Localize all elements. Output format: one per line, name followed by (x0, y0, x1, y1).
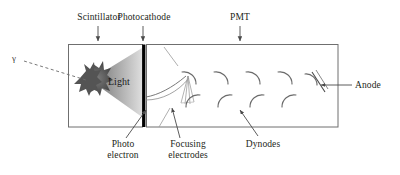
label-pmt: PMT (216, 12, 264, 23)
label-focusing-line1: Focusing (152, 139, 224, 150)
label-photo-electron-line1: Photo (92, 139, 154, 150)
label-photocathode: Photocathode (108, 12, 180, 23)
label-photo-electron-line2: electron (92, 150, 154, 161)
label-light: Light (108, 76, 130, 87)
pmt-envelope (147, 45, 339, 128)
label-anode: Anode (355, 80, 381, 91)
label-focusing-line2: electrodes (152, 150, 224, 161)
figure-canvas: Scintillator Photocathode PMT γ Light An… (0, 0, 400, 175)
label-dynodes: Dynodes (232, 139, 294, 150)
label-gamma: γ (12, 53, 16, 63)
